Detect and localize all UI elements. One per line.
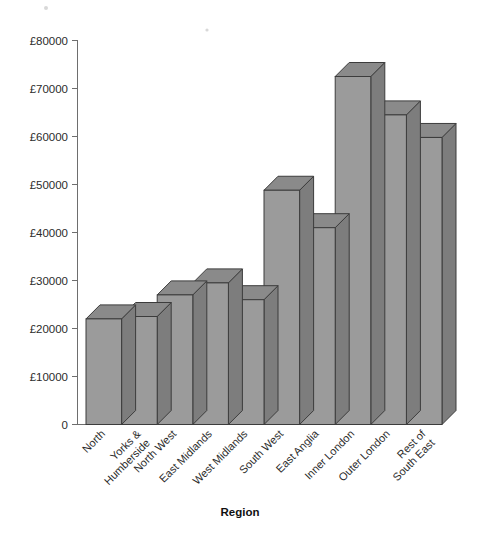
bar-side-face xyxy=(442,123,456,424)
chart-canvas: £80000 £70000 £60000 £50000 £40000 £3000… xyxy=(0,0,497,541)
bar-side-face xyxy=(122,305,136,425)
y-tick-label: £30000 xyxy=(30,275,68,287)
x-category-label-line: North xyxy=(80,427,108,455)
y-tick-label: 0 xyxy=(62,419,68,431)
y-axis-ticks xyxy=(72,41,78,425)
bar-group xyxy=(86,305,136,425)
bar-side-face xyxy=(157,303,171,425)
bar-side-face xyxy=(228,269,242,425)
x-axis-title: Region xyxy=(221,506,260,518)
bar-side-face xyxy=(371,63,385,425)
bar-side-face xyxy=(335,214,349,425)
bar-series-group xyxy=(86,63,456,425)
y-tick-label: £20000 xyxy=(30,323,68,335)
bar-side-face xyxy=(264,286,278,425)
x-category-label: North xyxy=(80,427,108,455)
y-tick-label: £80000 xyxy=(30,35,68,47)
y-axis-tick-labels: £80000 £70000 £60000 £50000 £40000 £3000… xyxy=(30,35,68,431)
y-tick-label: £70000 xyxy=(30,83,68,95)
y-tick-label: £60000 xyxy=(30,131,68,143)
bar-front-face xyxy=(86,319,122,425)
bar-side-face xyxy=(300,176,314,424)
scan-artifact xyxy=(44,6,48,10)
bar-side-face xyxy=(193,281,207,425)
bar-chart-figure: £80000 £70000 £60000 £50000 £40000 £3000… xyxy=(0,0,497,541)
scan-artifact xyxy=(205,28,208,31)
y-tick-label: £10000 xyxy=(30,371,68,383)
x-axis-category-labels: NorthYorks &HumbersideNorth WestEast Mid… xyxy=(80,427,438,487)
y-tick-label: £50000 xyxy=(30,179,68,191)
bar-side-face xyxy=(406,101,420,425)
y-tick-label: £40000 xyxy=(30,227,68,239)
